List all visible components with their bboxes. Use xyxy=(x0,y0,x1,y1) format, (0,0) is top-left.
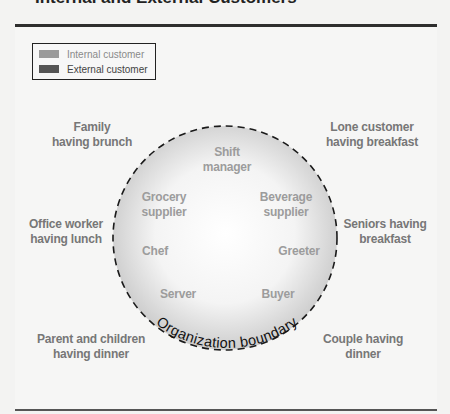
label-line: having dinner xyxy=(37,347,145,362)
external-lone-customer-breakfast: Lone customer having breakfast xyxy=(326,120,418,150)
label-line: Buyer xyxy=(261,287,294,302)
internal-buyer: Buyer xyxy=(261,287,294,302)
bottom-rule xyxy=(15,409,437,411)
label-line: Greeter xyxy=(278,244,319,259)
label-line: breakfast xyxy=(343,232,426,247)
internal-chef: Chef xyxy=(142,244,168,259)
label-line: Family xyxy=(52,120,132,135)
label-line: Beverage xyxy=(260,190,312,205)
external-couple-dinner: Couple having dinner xyxy=(323,332,403,362)
label-line: supplier xyxy=(141,205,186,220)
internal-greeter: Greeter xyxy=(278,244,319,259)
label-line: dinner xyxy=(323,347,403,362)
label-line: Couple having xyxy=(323,332,403,347)
label-line: Lone customer xyxy=(326,120,418,135)
internal-beverage-supplier: Beverage supplier xyxy=(260,190,312,220)
internal-grocery-supplier: Grocery supplier xyxy=(141,190,186,220)
internal-shift-manager: Shift manager xyxy=(203,145,252,175)
external-family-brunch: Family having brunch xyxy=(52,120,132,150)
label-line: Parent and children xyxy=(37,332,145,347)
label-line: Server xyxy=(160,287,196,302)
internal-server: Server xyxy=(160,287,196,302)
external-seniors-breakfast: Seniors having breakfast xyxy=(343,217,426,247)
label-line: having breakfast xyxy=(326,135,418,150)
label-line: Shift xyxy=(203,145,252,160)
label-line: Seniors having xyxy=(343,217,426,232)
external-parent-children-dinner: Parent and children having dinner xyxy=(37,332,145,362)
label-line: having brunch xyxy=(52,135,132,150)
label-line: supplier xyxy=(260,205,312,220)
label-line: manager xyxy=(203,160,252,175)
label-line: Office worker xyxy=(29,217,103,232)
label-line: having lunch xyxy=(29,232,103,247)
label-line: Grocery xyxy=(141,190,186,205)
label-line: Chef xyxy=(142,244,168,259)
external-office-worker-lunch: Office worker having lunch xyxy=(29,217,103,247)
